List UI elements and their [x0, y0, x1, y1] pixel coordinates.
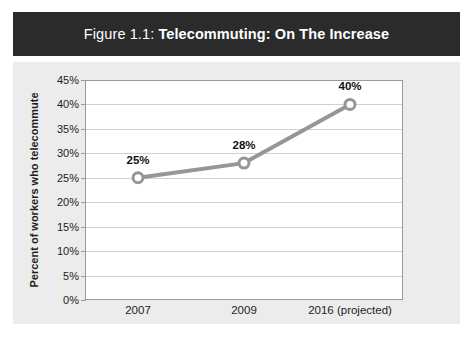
- chart-panel: Percent of workers who telecommute 0%5%1…: [13, 62, 460, 324]
- page-title: Figure 1.1: Telecommuting: On The Increa…: [84, 26, 389, 42]
- y-axis-tick: [81, 300, 86, 301]
- figure-title-banner: Figure 1.1: Telecommuting: On The Increa…: [13, 12, 460, 56]
- y-axis-title: Percent of workers who telecommute: [26, 80, 42, 300]
- y-axis-tick-label: 20%: [57, 196, 79, 208]
- title-prefix: Figure 1.1:: [84, 26, 159, 42]
- y-axis-tick-label: 35%: [57, 123, 79, 135]
- y-axis-tick-label: 0%: [63, 294, 79, 306]
- y-axis-tick-label: 10%: [57, 245, 79, 257]
- x-axis-tick-label: 2016 (projected): [308, 304, 392, 316]
- y-axis-tick-label: 25%: [57, 172, 79, 184]
- y-axis-tick-label: 30%: [57, 147, 79, 159]
- y-axis-tick-label: 40%: [57, 98, 79, 110]
- y-axis-tick-label: 45%: [57, 74, 79, 86]
- figure-container: Figure 1.1: Telecommuting: On The Increa…: [0, 0, 473, 342]
- data-point-label: 28%: [232, 139, 255, 151]
- data-point-label: 25%: [126, 154, 149, 166]
- x-axis-tick-labels: 200720092016 (projected): [85, 304, 403, 322]
- x-axis-tick-label: 2009: [231, 304, 257, 316]
- y-axis-tick-label: 15%: [57, 221, 79, 233]
- x-axis-tick-label: 2007: [125, 304, 151, 316]
- data-point-label: 40%: [338, 80, 361, 92]
- y-axis-tick-label: 5%: [63, 270, 79, 282]
- y-axis-tick-labels: 0%5%10%15%20%25%30%35%40%45%: [43, 80, 79, 300]
- title-main: Telecommuting: On The Increase: [158, 26, 389, 42]
- data-point-labels: 25%28%40%: [85, 80, 403, 300]
